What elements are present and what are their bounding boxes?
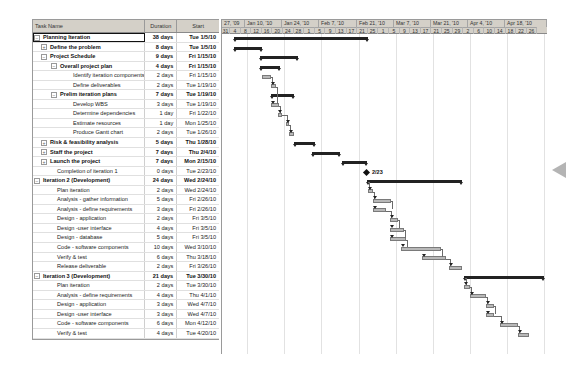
duration-cell[interactable]: 5 days xyxy=(145,233,177,242)
milestone-diamond-icon[interactable] xyxy=(363,169,370,176)
duration-cell[interactable]: 9 days xyxy=(145,52,177,61)
summary-bar[interactable] xyxy=(312,152,340,155)
start-cell[interactable]: Mon 1/25/10 xyxy=(177,119,219,128)
duration-cell[interactable]: 7 days xyxy=(145,148,177,157)
start-cell[interactable]: Tue 3/30/10 xyxy=(177,281,219,290)
table-row[interactable]: −Iteration 2 (Development)24 daysWed 2/2… xyxy=(33,176,219,186)
task-name-cell[interactable]: Determine dependencies xyxy=(33,109,145,118)
table-row[interactable]: Plan iteration2 daysWed 2/24/10 xyxy=(33,186,219,196)
table-row[interactable]: Design -user interface4 daysFri 3/5/10 xyxy=(33,224,219,234)
duration-cell[interactable]: 3 days xyxy=(145,300,177,309)
table-row[interactable]: Determine dependencies1 dayFri 1/22/10 xyxy=(33,109,219,119)
start-cell[interactable]: Fri 3/26/10 xyxy=(177,262,219,271)
table-row[interactable]: −Project Schedule9 daysFri 1/15/10 xyxy=(33,52,219,62)
task-name-cell[interactable]: Analysis - define requirements xyxy=(33,205,145,214)
start-cell[interactable]: Mon 4/12/10 xyxy=(177,319,219,328)
duration-cell[interactable]: 4 days xyxy=(145,62,177,71)
duration-cell[interactable]: 2 days xyxy=(145,186,177,195)
task-name-cell[interactable]: Produce Gantt chart xyxy=(33,128,145,137)
collapse-icon[interactable]: − xyxy=(51,63,57,69)
start-cell[interactable]: Wed 4/7/10 xyxy=(177,310,219,319)
task-bar[interactable] xyxy=(390,218,398,222)
task-name-cell[interactable]: −Planning Iteration xyxy=(33,33,145,42)
task-name-cell[interactable]: Verify & test xyxy=(33,253,145,262)
start-cell[interactable]: Thu 4/1/10 xyxy=(177,291,219,300)
table-row[interactable]: −Overall project plan4 daysFri 1/15/10 xyxy=(33,62,219,72)
expand-icon[interactable]: + xyxy=(41,44,47,50)
collapse-icon[interactable]: − xyxy=(34,273,40,279)
task-bar[interactable] xyxy=(289,132,294,136)
duration-cell[interactable]: 2 days xyxy=(145,262,177,271)
task-name-cell[interactable]: Design - application xyxy=(33,214,145,223)
start-cell[interactable]: Tue 2/23/10 xyxy=(177,167,219,176)
column-header-task-name[interactable]: Task Name xyxy=(33,20,145,32)
duration-cell[interactable]: 2 days xyxy=(145,214,177,223)
start-cell[interactable]: Fri 2/26/10 xyxy=(177,195,219,204)
start-cell[interactable]: Tue 1/19/10 xyxy=(177,90,219,99)
task-bar[interactable] xyxy=(486,304,494,308)
duration-cell[interactable]: 5 days xyxy=(145,195,177,204)
task-name-cell[interactable]: +Define the problem xyxy=(33,43,145,52)
start-cell[interactable]: Fri 3/5/10 xyxy=(177,224,219,233)
task-name-cell[interactable]: Analysis - define requirements xyxy=(33,291,145,300)
table-row[interactable]: Analysis - gather information5 daysFri 2… xyxy=(33,195,219,205)
task-name-cell[interactable]: −Iteration 2 (Development) xyxy=(33,176,145,185)
table-row[interactable]: +Launch the project7 daysMon 2/15/10 xyxy=(33,157,219,167)
start-cell[interactable]: Wed 2/24/10 xyxy=(177,186,219,195)
table-row[interactable]: +Define the problem8 daysTue 1/5/10 xyxy=(33,43,219,53)
table-row[interactable]: Design - database5 daysFri 3/5/10 xyxy=(33,233,219,243)
column-header-duration[interactable]: Duration xyxy=(145,20,177,32)
duration-cell[interactable]: 21 days xyxy=(145,272,177,281)
table-row[interactable]: −Planning Iteration38 daysTue 1/5/10 xyxy=(33,33,219,43)
task-bar[interactable] xyxy=(401,247,441,251)
start-cell[interactable]: Tue 1/5/10 xyxy=(177,43,219,52)
summary-bar[interactable] xyxy=(234,37,368,40)
task-name-cell[interactable]: Develop WBS xyxy=(33,100,145,109)
table-row[interactable]: +Staff the project7 daysThu 2/4/10 xyxy=(33,148,219,158)
duration-cell[interactable]: 7 days xyxy=(145,90,177,99)
duration-cell[interactable]: 8 days xyxy=(145,43,177,52)
duration-cell[interactable]: 0 days xyxy=(145,167,177,176)
start-cell[interactable]: Tue 1/19/10 xyxy=(177,81,219,90)
start-cell[interactable]: Wed 2/24/10 xyxy=(177,176,219,185)
duration-cell[interactable]: 24 days xyxy=(145,176,177,185)
duration-cell[interactable]: 4 days xyxy=(145,224,177,233)
table-row[interactable]: Code - software components10 daysWed 3/1… xyxy=(33,243,219,253)
task-name-cell[interactable]: Code - software components xyxy=(33,243,145,252)
table-row[interactable]: Identify iteration components2 daysFri 1… xyxy=(33,71,219,81)
start-cell[interactable]: Tue 1/19/10 xyxy=(177,100,219,109)
task-bar[interactable] xyxy=(262,75,271,79)
duration-cell[interactable]: 3 days xyxy=(145,100,177,109)
duration-cell[interactable]: 4 days xyxy=(145,329,177,338)
table-row[interactable]: Produce Gantt chart2 daysTue 1/26/10 xyxy=(33,128,219,138)
task-bar[interactable] xyxy=(500,323,518,327)
task-bar[interactable] xyxy=(373,199,391,203)
task-bar[interactable] xyxy=(390,228,404,232)
task-name-cell[interactable]: +Risk & feasibility analysis xyxy=(33,138,145,147)
column-header-start[interactable]: Start xyxy=(177,20,219,32)
summary-bar[interactable] xyxy=(342,161,367,164)
table-row[interactable]: Completion of iteration 10 daysTue 2/23/… xyxy=(33,167,219,177)
start-cell[interactable]: Tue 4/20/10 xyxy=(177,329,219,338)
task-name-cell[interactable]: Design -user interface xyxy=(33,224,145,233)
table-row[interactable]: −Prelim iteration plans7 daysTue 1/19/10 xyxy=(33,90,219,100)
task-bar[interactable] xyxy=(271,103,279,107)
duration-cell[interactable]: 3 days xyxy=(145,310,177,319)
table-row[interactable]: Code - software components6 daysMon 4/12… xyxy=(33,319,219,329)
summary-bar[interactable] xyxy=(464,276,544,279)
duration-cell[interactable]: 5 days xyxy=(145,138,177,147)
start-cell[interactable]: Tue 3/30/10 xyxy=(177,272,219,281)
duration-cell[interactable]: 4 days xyxy=(145,291,177,300)
table-row[interactable]: Analysis - define requirements4 daysThu … xyxy=(33,291,219,301)
table-row[interactable]: Analysis - define requirements3 daysFri … xyxy=(33,205,219,215)
duration-cell[interactable]: 10 days xyxy=(145,243,177,252)
task-name-cell[interactable]: Design - database xyxy=(33,233,145,242)
collapse-icon[interactable]: − xyxy=(34,178,40,184)
task-name-cell[interactable]: Design - application xyxy=(33,300,145,309)
table-row[interactable]: Plan iteration2 daysTue 3/30/10 xyxy=(33,281,219,291)
duration-cell[interactable]: 7 days xyxy=(145,157,177,166)
expand-icon[interactable]: + xyxy=(41,159,47,165)
collapse-icon[interactable]: − xyxy=(41,54,47,60)
summary-bar[interactable] xyxy=(271,94,294,97)
task-name-cell[interactable]: −Project Schedule xyxy=(33,52,145,61)
